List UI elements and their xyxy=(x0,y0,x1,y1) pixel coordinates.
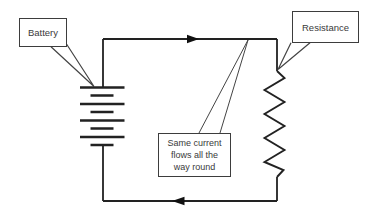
battery-symbol xyxy=(80,88,125,146)
resistor-symbol xyxy=(265,71,285,177)
note-label-box: Same current flows all the way round xyxy=(158,133,231,177)
note-line-3: way round xyxy=(174,161,216,173)
current-arrow-right-icon xyxy=(187,35,199,44)
resistance-label-box: Resistance xyxy=(292,11,359,43)
battery-label-box: Battery xyxy=(19,18,67,47)
current-arrow-left-icon xyxy=(172,197,185,206)
note-line-2: flows all the xyxy=(171,149,218,161)
note-line-1: Same current xyxy=(167,137,221,149)
resistance-callout-pointer xyxy=(278,43,310,70)
circuit-diagram: Battery Resistance Same current flows al… xyxy=(0,0,372,218)
resistance-label: Resistance xyxy=(302,22,349,33)
note-callout-pointer xyxy=(199,40,248,133)
battery-callout-pointer xyxy=(51,44,94,87)
battery-label: Battery xyxy=(28,27,58,38)
